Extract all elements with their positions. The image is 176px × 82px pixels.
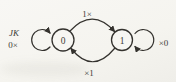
transition-1-to-0-label: ×1 [84,68,94,78]
state-diagram-svg: 0 1 JK 0× 1× ×0 ×1 [0,0,176,82]
state-1-label: 1 [120,36,125,46]
transition-0-to-1-label: 1× [82,9,92,19]
input-variables-label: JK [9,28,20,38]
self-loop-state-1 [135,29,154,50]
transition-arc-1-to-0 [71,49,115,62]
self-loop-state-0 [32,30,50,51]
state-0-label: 0 [61,36,66,46]
state-0-self-loop-label: 0× [8,40,18,50]
transition-arc-0-to-1 [70,19,115,31]
state-1-self-loop-label: ×0 [159,38,169,48]
state-diagram: 0 1 JK 0× 1× ×0 ×1 [0,0,176,82]
